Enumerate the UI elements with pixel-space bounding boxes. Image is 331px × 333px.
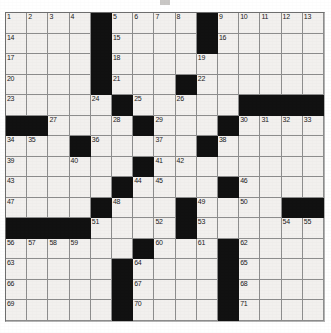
grid-letter-cell[interactable] — [282, 259, 303, 280]
grid-letter-cell[interactable]: 40 — [70, 157, 91, 178]
grid-letter-cell[interactable] — [176, 259, 197, 280]
grid-letter-cell[interactable]: 53 — [197, 218, 218, 239]
grid-letter-cell[interactable] — [197, 300, 218, 321]
grid-letter-cell[interactable]: 5 — [112, 13, 133, 34]
grid-letter-cell[interactable]: 33 — [303, 116, 324, 137]
grid-letter-cell[interactable]: 34 — [6, 136, 27, 157]
grid-letter-cell[interactable] — [133, 218, 154, 239]
grid-letter-cell[interactable] — [260, 259, 281, 280]
grid-letter-cell[interactable] — [176, 300, 197, 321]
grid-letter-cell[interactable] — [27, 34, 48, 55]
grid-letter-cell[interactable] — [91, 116, 112, 137]
grid-letter-cell[interactable] — [282, 54, 303, 75]
grid-letter-cell[interactable]: 18 — [112, 54, 133, 75]
grid-letter-cell[interactable] — [176, 54, 197, 75]
grid-letter-cell[interactable]: 19 — [197, 54, 218, 75]
grid-letter-cell[interactable]: 46 — [239, 177, 260, 198]
grid-letter-cell[interactable] — [197, 280, 218, 301]
grid-letter-cell[interactable]: 7 — [154, 13, 175, 34]
grid-letter-cell[interactable] — [260, 280, 281, 301]
grid-letter-cell[interactable] — [218, 54, 239, 75]
grid-letter-cell[interactable] — [154, 259, 175, 280]
grid-letter-cell[interactable] — [260, 75, 281, 96]
grid-letter-cell[interactable]: 31 — [260, 116, 281, 137]
grid-letter-cell[interactable] — [197, 116, 218, 137]
grid-letter-cell[interactable]: 41 — [154, 157, 175, 178]
grid-letter-cell[interactable]: 3 — [48, 13, 69, 34]
grid-letter-cell[interactable]: 11 — [260, 13, 281, 34]
grid-letter-cell[interactable] — [154, 95, 175, 116]
grid-letter-cell[interactable]: 2 — [27, 13, 48, 34]
grid-letter-cell[interactable] — [218, 157, 239, 178]
grid-letter-cell[interactable]: 13 — [303, 13, 324, 34]
grid-letter-cell[interactable] — [176, 177, 197, 198]
grid-letter-cell[interactable]: 25 — [133, 95, 154, 116]
grid-letter-cell[interactable] — [48, 300, 69, 321]
grid-letter-cell[interactable] — [282, 34, 303, 55]
grid-letter-cell[interactable] — [70, 280, 91, 301]
grid-letter-cell[interactable] — [303, 280, 324, 301]
grid-letter-cell[interactable] — [112, 136, 133, 157]
grid-letter-cell[interactable]: 70 — [133, 300, 154, 321]
grid-letter-cell[interactable] — [70, 95, 91, 116]
grid-letter-cell[interactable]: 54 — [282, 218, 303, 239]
grid-letter-cell[interactable] — [218, 198, 239, 219]
grid-letter-cell[interactable] — [303, 300, 324, 321]
grid-letter-cell[interactable] — [303, 177, 324, 198]
grid-letter-cell[interactable]: 32 — [282, 116, 303, 137]
grid-letter-cell[interactable]: 66 — [6, 280, 27, 301]
grid-letter-cell[interactable]: 16 — [218, 34, 239, 55]
grid-letter-cell[interactable] — [260, 239, 281, 260]
grid-letter-cell[interactable] — [239, 75, 260, 96]
grid-letter-cell[interactable] — [91, 280, 112, 301]
grid-letter-cell[interactable] — [48, 95, 69, 116]
grid-letter-cell[interactable] — [303, 136, 324, 157]
grid-letter-cell[interactable] — [133, 198, 154, 219]
grid-letter-cell[interactable] — [48, 198, 69, 219]
grid-letter-cell[interactable]: 62 — [239, 239, 260, 260]
grid-letter-cell[interactable] — [112, 239, 133, 260]
grid-letter-cell[interactable] — [27, 177, 48, 198]
grid-letter-cell[interactable]: 50 — [239, 198, 260, 219]
grid-letter-cell[interactable] — [260, 136, 281, 157]
grid-letter-cell[interactable] — [218, 218, 239, 239]
grid-letter-cell[interactable] — [154, 198, 175, 219]
grid-letter-cell[interactable]: 29 — [154, 116, 175, 137]
grid-letter-cell[interactable] — [91, 157, 112, 178]
grid-letter-cell[interactable] — [197, 157, 218, 178]
grid-letter-cell[interactable] — [176, 136, 197, 157]
grid-letter-cell[interactable]: 28 — [112, 116, 133, 137]
grid-letter-cell[interactable] — [48, 280, 69, 301]
grid-letter-cell[interactable] — [70, 54, 91, 75]
grid-letter-cell[interactable] — [303, 75, 324, 96]
grid-letter-cell[interactable] — [282, 177, 303, 198]
grid-letter-cell[interactable] — [303, 34, 324, 55]
grid-letter-cell[interactable] — [70, 259, 91, 280]
grid-letter-cell[interactable]: 15 — [112, 34, 133, 55]
grid-letter-cell[interactable] — [154, 54, 175, 75]
grid-letter-cell[interactable]: 21 — [112, 75, 133, 96]
grid-letter-cell[interactable] — [260, 177, 281, 198]
grid-letter-cell[interactable] — [48, 136, 69, 157]
grid-letter-cell[interactable]: 58 — [48, 239, 69, 260]
grid-letter-cell[interactable] — [91, 259, 112, 280]
grid-letter-cell[interactable] — [70, 75, 91, 96]
grid-letter-cell[interactable]: 60 — [154, 239, 175, 260]
grid-letter-cell[interactable] — [27, 198, 48, 219]
grid-letter-cell[interactable]: 63 — [6, 259, 27, 280]
grid-letter-cell[interactable] — [197, 259, 218, 280]
grid-letter-cell[interactable] — [91, 300, 112, 321]
grid-letter-cell[interactable] — [27, 300, 48, 321]
grid-letter-cell[interactable] — [154, 300, 175, 321]
grid-letter-cell[interactable] — [260, 157, 281, 178]
grid-letter-cell[interactable] — [303, 157, 324, 178]
grid-letter-cell[interactable] — [218, 95, 239, 116]
grid-letter-cell[interactable] — [239, 54, 260, 75]
grid-letter-cell[interactable] — [260, 198, 281, 219]
grid-letter-cell[interactable]: 43 — [6, 177, 27, 198]
grid-letter-cell[interactable]: 57 — [27, 239, 48, 260]
grid-letter-cell[interactable] — [176, 116, 197, 137]
grid-letter-cell[interactable]: 36 — [91, 136, 112, 157]
grid-letter-cell[interactable] — [48, 54, 69, 75]
grid-letter-cell[interactable] — [239, 136, 260, 157]
